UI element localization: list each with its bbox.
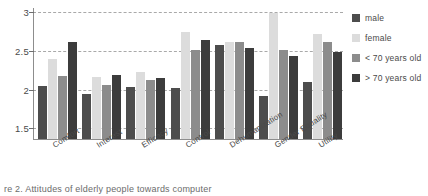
bar-group: [38, 8, 77, 139]
bar: [58, 76, 67, 139]
bar: [279, 50, 288, 139]
bar: [48, 59, 57, 139]
legend-item[interactable]: < 70 years old: [352, 48, 428, 68]
legend-swatch-icon: [352, 34, 360, 42]
y-axis-tick: [29, 128, 34, 129]
chart-plot-area: 1.522.53: [33, 8, 343, 140]
bar: [102, 85, 111, 139]
bar-group: [82, 8, 121, 139]
y-axis-tick: [29, 90, 34, 91]
bar: [225, 42, 234, 139]
legend-item[interactable]: > 70 years old: [352, 68, 428, 88]
bar: [215, 45, 224, 139]
legend-item-label: female: [365, 33, 392, 43]
bar: [171, 88, 180, 139]
figure-caption: re 2. Attitudes of elderly people toward…: [4, 184, 212, 196]
legend-swatch-icon: [352, 74, 360, 82]
chart-legend: malefemale< 70 years old> 70 years old: [352, 8, 428, 88]
bar-group: [126, 8, 165, 139]
bar: [146, 80, 155, 139]
legend-item-label: male: [365, 13, 384, 23]
bar: [323, 42, 332, 139]
figure-container: 1.522.53 ComfortInterestEfficacyControlD…: [0, 0, 428, 196]
bar: [201, 40, 210, 139]
legend-item[interactable]: male: [352, 8, 428, 28]
bar: [191, 50, 200, 139]
y-axis-tick: [29, 51, 34, 52]
bar: [235, 42, 244, 139]
legend-swatch-icon: [352, 14, 360, 22]
y-axis-tick-label: 3: [23, 6, 29, 17]
legend-item-label: > 70 years old: [365, 73, 421, 83]
bar: [136, 72, 145, 139]
bar: [38, 86, 47, 139]
bar: [92, 77, 101, 139]
y-axis-tick-label: 2.5: [15, 45, 29, 56]
bar: [68, 42, 77, 139]
bar: [181, 32, 190, 139]
bar-group: [171, 8, 210, 139]
y-axis-tick-label: 2: [23, 84, 29, 95]
y-axis-tick: [29, 12, 34, 13]
y-axis-line: [33, 8, 34, 140]
bar: [333, 52, 342, 139]
legend-swatch-icon: [352, 54, 360, 62]
legend-item[interactable]: female: [352, 28, 428, 48]
y-axis-tick-label: 1.5: [15, 123, 29, 134]
bar: [126, 87, 135, 139]
bar-group: [215, 8, 254, 139]
bar: [82, 94, 91, 139]
legend-item-label: < 70 years old: [365, 53, 421, 63]
